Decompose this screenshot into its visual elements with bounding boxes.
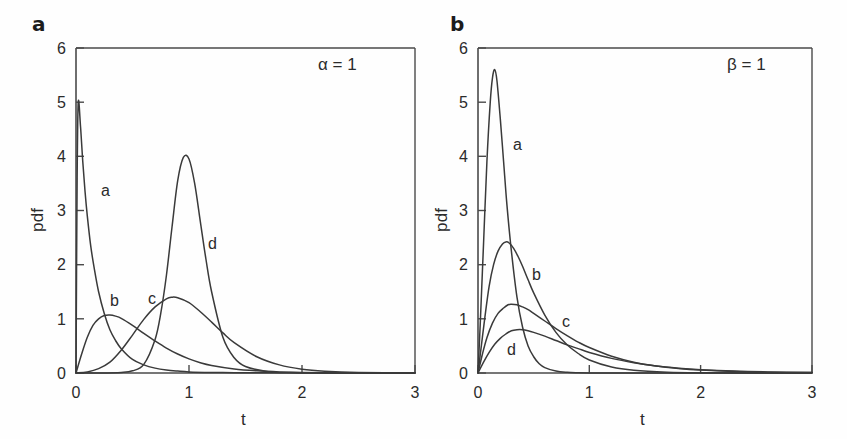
panel-a-axes: [76, 48, 415, 373]
panel-b-x-axis-title: t: [640, 410, 645, 430]
panel-b-y-axis-title: pdf: [432, 208, 452, 232]
panel-a-curve-label-b: b: [110, 293, 119, 309]
panel-b-ytick-1: 1: [459, 311, 468, 328]
panel-a-curves: [76, 100, 415, 373]
panel-b-curve-label-b: b: [532, 267, 541, 283]
panel-b-curve-c: [478, 304, 812, 373]
panel-a-curve-label-d: d: [208, 236, 217, 252]
panel-b-ytick-6: 6: [459, 40, 468, 57]
panel-a-xtick-1: 1: [185, 384, 194, 401]
panel-b-ytick-2: 2: [459, 256, 468, 273]
panel-b: b: [423, 0, 847, 439]
figure-root: a: [0, 0, 847, 439]
panel-a-y-axis-title: pdf: [28, 208, 48, 232]
panel-a: a: [0, 0, 424, 439]
panel-a-xtick-3: 3: [411, 384, 420, 401]
panel-a-curve-a: [76, 100, 415, 373]
panel-b-curve-label-c: c: [562, 314, 570, 330]
panel-b-curve-label-a: a: [513, 137, 522, 153]
panel-a-parameter-annotation: α = 1: [318, 55, 357, 75]
panel-b-curve-d: [478, 330, 812, 373]
panel-b-parameter-annotation: β = 1: [727, 55, 766, 75]
panel-a-plot: 6 5 4 3 2 1 0 0 1 2 3: [0, 0, 424, 439]
panel-a-ytick-1: 1: [57, 311, 66, 328]
panel-a-ytick-4: 4: [57, 148, 66, 165]
panel-a-curve-label-c: c: [148, 291, 156, 307]
panel-a-curve-label-a: a: [101, 183, 110, 199]
panel-b-ytick-4: 4: [459, 148, 468, 165]
panel-b-curve-label-d: d: [507, 342, 516, 358]
panel-b-ytick-0: 0: [459, 365, 468, 382]
panel-a-curve-c: [76, 297, 415, 373]
panel-b-curves: [478, 70, 812, 373]
panel-b-ytick-5: 5: [459, 94, 468, 111]
panel-a-ytick-0: 0: [57, 365, 66, 382]
panel-a-ytick-3: 3: [57, 202, 66, 219]
panel-b-curve-a: [478, 70, 812, 373]
panel-a-ytick-6: 6: [57, 40, 66, 57]
panel-b-axes: [478, 48, 812, 373]
panel-b-plot: 6 5 4 3 2 1 0 0 1 2 3: [423, 0, 847, 439]
panel-a-ytick-2: 2: [57, 256, 66, 273]
panel-a-xtick-0: 0: [72, 384, 81, 401]
panel-b-ytick-3: 3: [459, 202, 468, 219]
panel-b-curve-b: [478, 242, 812, 373]
panel-b-xtick-1: 1: [585, 384, 594, 401]
panel-a-tick-text: 6 5 4 3 2 1 0 0 1 2 3: [57, 40, 419, 401]
panel-a-xtick-2: 2: [298, 384, 307, 401]
panel-a-ytick-5: 5: [57, 94, 66, 111]
panel-a-x-axis-title: t: [241, 410, 246, 430]
panel-b-xtick-3: 3: [808, 384, 817, 401]
panel-b-xtick-2: 2: [696, 384, 705, 401]
panel-a-curve-d: [76, 155, 415, 373]
panel-b-xtick-0: 0: [474, 384, 483, 401]
